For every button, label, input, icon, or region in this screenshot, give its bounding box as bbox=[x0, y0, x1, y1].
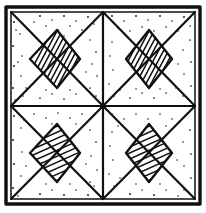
figure-root: Geometric tile pattern bbox=[0, 0, 206, 213]
geometric-pattern-canvas bbox=[0, 0, 206, 213]
quadrant-structure-lines bbox=[11, 12, 195, 199]
